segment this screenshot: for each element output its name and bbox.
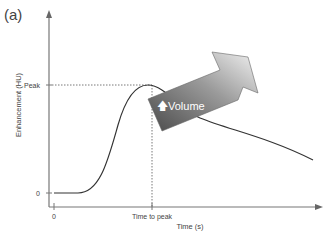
x-axis-arrow-icon [315,204,323,210]
y-tick-peak: Peak [24,82,40,89]
x-axis [49,203,323,210]
y-axis-arrow-icon [46,10,52,18]
x-axis-label: Time (s) [176,222,204,231]
up-arrow-icon: 🡅 [157,100,168,112]
y-axis [46,10,52,207]
y-tick-zero: 0 [36,190,40,197]
enhancement-diagram: (a) Peak 0 Enhancement (HU) 0 Time to pe… [0,0,325,246]
x-tick-zero: 0 [52,213,56,220]
x-tick-time-to-peak: Time to peak [132,213,173,221]
volume-label: 🡅Volume [157,100,205,112]
panel-label: (a) [4,6,22,23]
y-axis-label: Enhancement (HU) [14,72,23,137]
